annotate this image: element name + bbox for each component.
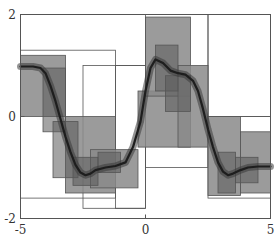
level2-box	[166, 76, 191, 112]
x-axis-ticks: -505	[15, 215, 275, 238]
x-tick-label: 0	[142, 223, 150, 237]
y-tick-label: -2	[4, 212, 16, 226]
x-tick-label: 5	[267, 223, 275, 237]
y-tick-label: 0	[8, 110, 16, 124]
chart: -505 -202	[0, 0, 279, 242]
x-tick-label: -5	[15, 223, 27, 237]
y-tick-label: 2	[8, 8, 16, 22]
outline-box	[208, 15, 271, 117]
